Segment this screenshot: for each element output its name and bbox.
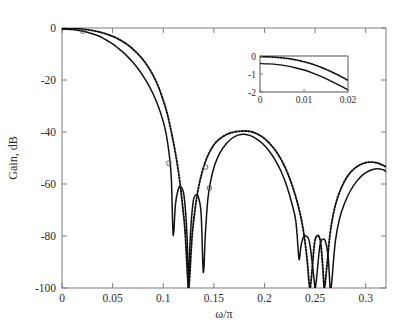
y-tick-label: -100 <box>35 282 56 294</box>
x-tick-label: 0.05 <box>103 292 123 304</box>
inset-x-tick-labels: 00.010.02 <box>258 95 357 105</box>
inset-y-tick-labels: 0-1-2 <box>248 52 256 98</box>
inset-y-tick-label: -2 <box>248 88 256 98</box>
x-tick-label: 0.25 <box>305 292 325 304</box>
x-tick-label: 0.3 <box>359 292 374 304</box>
inset-y-tick-label: 0 <box>251 52 256 62</box>
inset-x-tick-label: 0.02 <box>340 95 357 105</box>
x-tick-labels: 00.050.10.150.20.250.3 <box>59 292 373 304</box>
x-tick-label: 0.2 <box>257 292 272 304</box>
inset-x-tick-label: 0 <box>258 95 263 105</box>
inset-x-tick-label: 0.01 <box>296 95 313 105</box>
x-tick-label: 0 <box>59 292 65 304</box>
y-tick-label: -80 <box>41 230 57 242</box>
y-tick-label: -20 <box>41 74 57 86</box>
y-tick-label: -40 <box>41 126 57 138</box>
y-tick-label: 0 <box>50 22 56 34</box>
y-tick-label: -60 <box>41 178 57 190</box>
data-point-markers <box>80 29 211 190</box>
inset-axes: 00.010.02 0-1-2 <box>248 52 356 106</box>
chart-canvas: 00.050.10.150.20.250.3 0-20-40-60-80-100… <box>0 0 404 332</box>
x-axis-label: ω/π <box>215 307 232 321</box>
y-tick-labels: 0-20-40-60-80-100 <box>35 22 56 294</box>
x-tick-label: 0.15 <box>204 292 224 304</box>
y-axis-label: Gain, dB <box>6 136 20 179</box>
inset-y-tick-label: -1 <box>248 70 256 80</box>
figure-container: 00.050.10.150.20.250.3 0-20-40-60-80-100… <box>0 0 404 332</box>
x-tick-label: 0.1 <box>156 292 171 304</box>
